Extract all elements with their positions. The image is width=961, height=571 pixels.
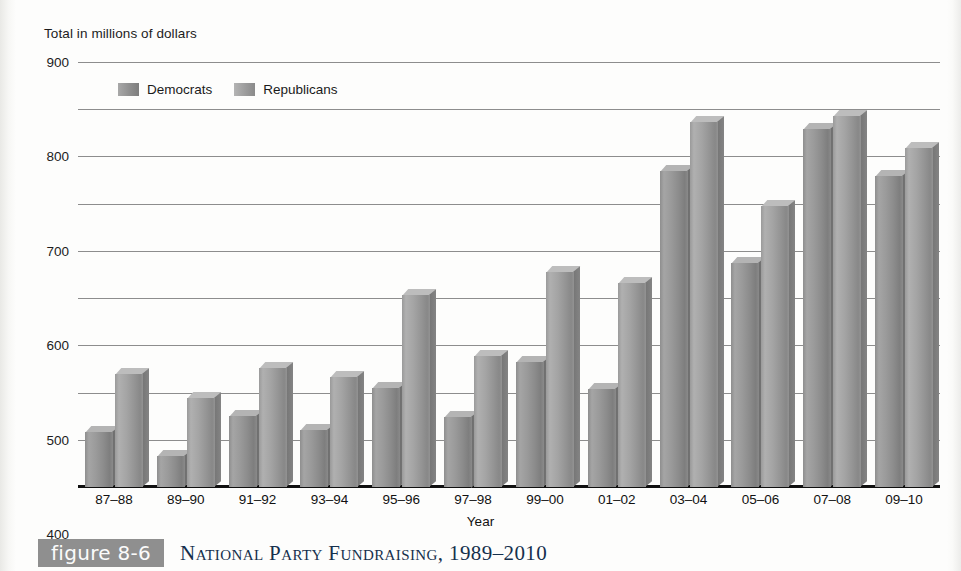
bar-face <box>833 116 861 487</box>
bar-side <box>429 289 436 487</box>
bar-republicans <box>618 277 646 487</box>
bar-side <box>501 350 508 487</box>
bar-group <box>516 62 574 487</box>
legend-item-democrats: Democrats <box>118 82 212 97</box>
x-axis-tick-label: 89–90 <box>167 492 205 507</box>
bar-face <box>875 176 903 487</box>
bar-group <box>660 62 718 487</box>
bar-face <box>516 362 544 487</box>
bar-face <box>660 171 688 487</box>
legend-label-republicans: Republicans <box>263 82 337 97</box>
bar-face <box>618 283 646 487</box>
x-axis-tick-label: 95–96 <box>382 492 420 507</box>
y-axis-tick-label: 500 <box>46 432 69 447</box>
bar-republicans <box>115 368 143 487</box>
bar-face <box>85 432 113 487</box>
bar-face <box>187 398 215 487</box>
bar-group <box>588 62 646 487</box>
x-axis-tick-label: 99–00 <box>526 492 564 507</box>
x-axis-title: Year <box>0 514 961 529</box>
x-axis-tick-label: 87–88 <box>95 492 133 507</box>
bar-republicans <box>474 350 502 487</box>
bar-democrats <box>516 356 544 487</box>
bar-face <box>690 122 718 487</box>
figure-caption-title: National Party Fundraising, 1989–2010 <box>180 539 547 567</box>
bar-democrats <box>444 411 472 488</box>
chart-plot-area: 0100200300400500600700800900 <box>78 62 940 487</box>
x-axis-tick-label: 97–98 <box>454 492 492 507</box>
y-axis-title: Total in millions of dollars <box>44 26 197 41</box>
x-axis-tick-label: 07–08 <box>813 492 851 507</box>
bar-democrats <box>157 450 185 487</box>
bar-republicans <box>761 200 789 487</box>
bar-democrats <box>731 257 759 487</box>
bar-face <box>259 368 287 487</box>
bar-series-container <box>78 62 940 487</box>
bar-democrats <box>229 410 257 487</box>
bar-face <box>803 129 831 487</box>
x-axis-tick-label: 09–10 <box>885 492 923 507</box>
bar-group <box>731 62 789 487</box>
bar-group <box>803 62 861 487</box>
bar-democrats <box>875 170 903 487</box>
bar-side <box>142 369 149 487</box>
x-axis-tick-label: 03–04 <box>670 492 708 507</box>
bar-democrats <box>85 426 113 487</box>
bar-face <box>905 148 933 487</box>
x-axis-tick-label: 93–94 <box>311 492 349 507</box>
bar-democrats <box>803 123 831 487</box>
bar-democrats <box>300 424 328 487</box>
scan-edge-left <box>0 0 16 571</box>
bar-democrats <box>372 382 400 487</box>
bar-group <box>85 62 143 487</box>
y-axis-tick-label: 600 <box>46 338 69 353</box>
bar-group <box>444 62 502 487</box>
bar-democrats <box>588 383 616 487</box>
bar-face <box>372 388 400 487</box>
bar-republicans <box>402 289 430 487</box>
bar-face <box>300 430 328 487</box>
scan-edge-right <box>947 0 961 571</box>
x-axis-tick-label: 01–02 <box>598 492 636 507</box>
bar-republicans <box>905 142 933 487</box>
bar-side <box>860 110 867 487</box>
bar-group <box>300 62 358 487</box>
bar-side <box>214 392 221 487</box>
bar-democrats <box>660 165 688 487</box>
bar-side <box>717 116 724 487</box>
bar-face <box>115 374 143 487</box>
chart-legend: Democrats Republicans <box>118 82 338 97</box>
y-axis-tick-label: 800 <box>46 149 69 164</box>
bar-side <box>357 371 364 487</box>
figure-caption: figure 8-6 National Party Fundraising, 1… <box>38 539 547 567</box>
bar-group <box>875 62 933 487</box>
x-axis-tick-label: 91–92 <box>239 492 277 507</box>
bar-side <box>286 362 293 487</box>
bar-face <box>761 206 789 487</box>
figure-number-badge: figure 8-6 <box>38 539 164 567</box>
bar-side <box>932 142 939 487</box>
figure-page: Total in millions of dollars 01002003004… <box>0 0 961 571</box>
bar-group <box>229 62 287 487</box>
bar-group <box>157 62 215 487</box>
bar-face <box>546 272 574 487</box>
legend-item-republicans: Republicans <box>234 82 337 97</box>
legend-swatch-republicans-icon <box>234 83 255 96</box>
bar-face <box>229 416 257 487</box>
bar-republicans <box>330 371 358 487</box>
bar-face <box>157 456 185 487</box>
bar-face <box>402 295 430 487</box>
bar-republicans <box>546 266 574 487</box>
bar-group <box>372 62 430 487</box>
legend-swatch-democrats-icon <box>118 83 139 96</box>
bar-side <box>645 277 652 487</box>
bar-side <box>573 266 580 487</box>
bar-republicans <box>690 116 718 487</box>
bar-face <box>731 263 759 487</box>
x-axis-tick-label: 05–06 <box>742 492 780 507</box>
bar-face <box>588 389 616 487</box>
y-axis-tick-label: 900 <box>46 55 69 70</box>
bar-republicans <box>187 392 215 487</box>
y-axis-tick-label: 700 <box>46 243 69 258</box>
bar-face <box>330 377 358 487</box>
